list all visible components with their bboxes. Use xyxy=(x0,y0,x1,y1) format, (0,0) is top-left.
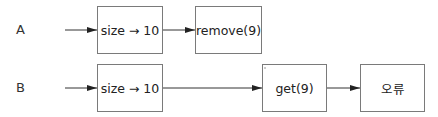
row-label-a: A xyxy=(16,22,25,37)
node-b-get-text: get(9) xyxy=(275,81,313,96)
node-a-remove: remove(9) xyxy=(195,6,262,54)
node-b-get: get(9) xyxy=(262,64,327,112)
node-a-size: size → 10 xyxy=(97,6,163,54)
node-a-remove-text: remove(9) xyxy=(196,23,261,38)
node-b-size: size → 10 xyxy=(97,64,163,112)
node-b-size-text: size → 10 xyxy=(101,81,160,96)
speck-mark xyxy=(264,67,266,69)
node-a-size-text: size → 10 xyxy=(101,23,160,38)
row-label-b: B xyxy=(16,80,25,95)
node-b-error: 오류 xyxy=(360,64,425,112)
node-b-error-text: 오류 xyxy=(381,79,405,98)
